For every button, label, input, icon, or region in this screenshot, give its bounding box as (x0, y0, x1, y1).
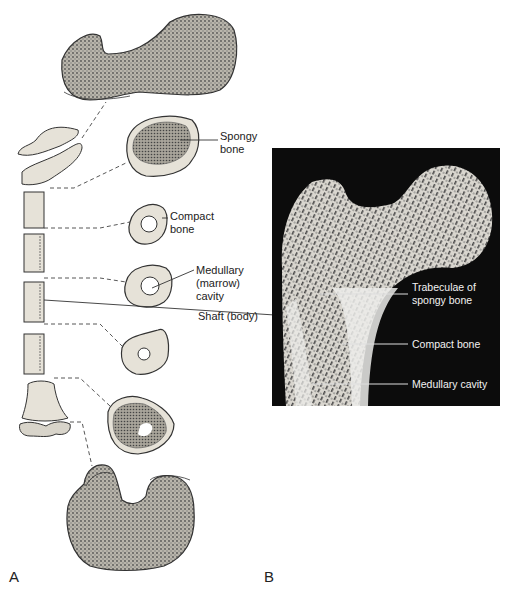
shaft-segment-1 (24, 192, 44, 228)
label-shaft: Shaft (body) (198, 310, 258, 323)
panel-letter-a: A (9, 568, 19, 585)
distal-segment (22, 381, 68, 421)
label-compact-bone: Compact bone (170, 210, 214, 236)
proximal-section (62, 14, 237, 100)
label-medullary-cavity-b: Medullary cavity (412, 378, 487, 391)
label-medullary-cavity: Medullary (marrow) cavity (196, 264, 244, 303)
label-trabeculae: Trabeculae of spongy bone (412, 281, 476, 307)
label-spongy-bone: Spongy bone (220, 130, 257, 156)
shaft-segment-2 (24, 234, 44, 272)
femur-photo-illustration (272, 148, 500, 406)
shaft-segment-3 (24, 282, 44, 322)
label-compact-bone-b: Compact bone (412, 338, 480, 351)
panel-b-photo: Trabeculae of spongy bone Compact bone M… (272, 148, 500, 406)
distal-cap-piece (19, 422, 70, 437)
shaft-segment-4 (24, 334, 44, 374)
panel-letter-b: B (264, 568, 274, 585)
distal-section (67, 465, 194, 571)
